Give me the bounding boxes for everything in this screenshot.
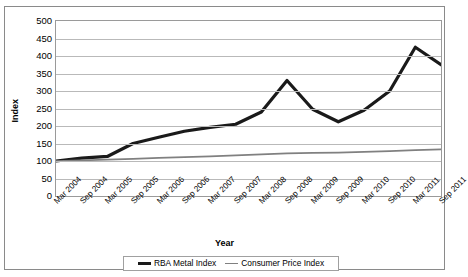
y-axis-tick-label: 350 <box>10 69 52 79</box>
gridline <box>56 91 441 92</box>
gridline <box>56 179 441 180</box>
chart-legend: RBA Metal Index Consumer Price Index <box>123 256 339 271</box>
y-axis-tick-label: 50 <box>10 174 52 184</box>
legend-swatch-icon <box>138 262 151 265</box>
legend-item-consumer-price-index: Consumer Price Index <box>225 259 324 267</box>
y-axis-tick-label: 300 <box>10 86 52 96</box>
gridline <box>56 74 441 75</box>
legend-label: RBA Metal Index <box>154 259 216 267</box>
y-axis-title: Index <box>10 99 20 123</box>
y-axis-tick-label: 100 <box>10 156 52 166</box>
plot-area <box>55 20 442 197</box>
series-line <box>56 149 441 161</box>
gridline <box>56 144 441 145</box>
x-axis-title: Year <box>5 238 444 248</box>
legend-item-rba-metal-index: RBA Metal Index <box>138 259 216 267</box>
legend-swatch-icon <box>225 263 238 265</box>
y-axis-tick-label: 400 <box>10 51 52 61</box>
x-axis-tick-label: Sep 2011 <box>438 176 468 206</box>
legend-label: Consumer Price Index <box>241 259 324 267</box>
y-axis-tick-label: 150 <box>10 139 52 149</box>
y-axis-tick-label: 450 <box>10 34 52 44</box>
gridline <box>56 56 441 57</box>
y-axis-tick-label: 0 <box>10 191 52 201</box>
chart-frame: Index 050100150200250300350400450500 Mar… <box>4 6 445 270</box>
y-axis-tick-label: 500 <box>10 16 52 26</box>
gridline <box>56 126 441 127</box>
gridline <box>56 109 441 110</box>
gridline <box>56 39 441 40</box>
gridline <box>56 161 441 162</box>
